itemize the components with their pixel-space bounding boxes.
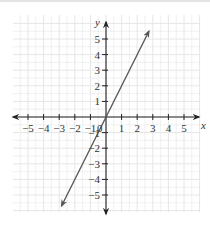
x-tick-label: −5 — [22, 122, 34, 134]
y-tick-label: −4 — [88, 173, 100, 185]
origin-label: 0 — [97, 122, 103, 134]
y-tick-label: −3 — [88, 158, 100, 170]
y-tick-label: 4 — [95, 49, 101, 61]
y-tick-label: 3 — [95, 64, 101, 76]
y-tick-label: −5 — [88, 189, 100, 201]
x-tick-label: 1 — [119, 122, 125, 134]
y-tick-label: 1 — [95, 95, 101, 107]
coordinate-plane: −5−4−3−2−11234554321−1−2−3−4−5 x y 0 — [0, 0, 210, 236]
x-tick-label: 2 — [134, 122, 140, 134]
x-tick-label: −4 — [38, 122, 50, 134]
y-tick-label: 2 — [95, 80, 101, 92]
x-tick-label: 5 — [181, 122, 187, 134]
x-axis-label: x — [200, 119, 206, 131]
y-axis-label: y — [94, 16, 100, 28]
x-tick-label: 3 — [150, 122, 156, 134]
x-tick-label: −2 — [69, 122, 81, 134]
x-tick-label: −3 — [53, 122, 65, 134]
x-tick-label: 4 — [166, 122, 172, 134]
y-tick-label: 5 — [95, 33, 101, 45]
